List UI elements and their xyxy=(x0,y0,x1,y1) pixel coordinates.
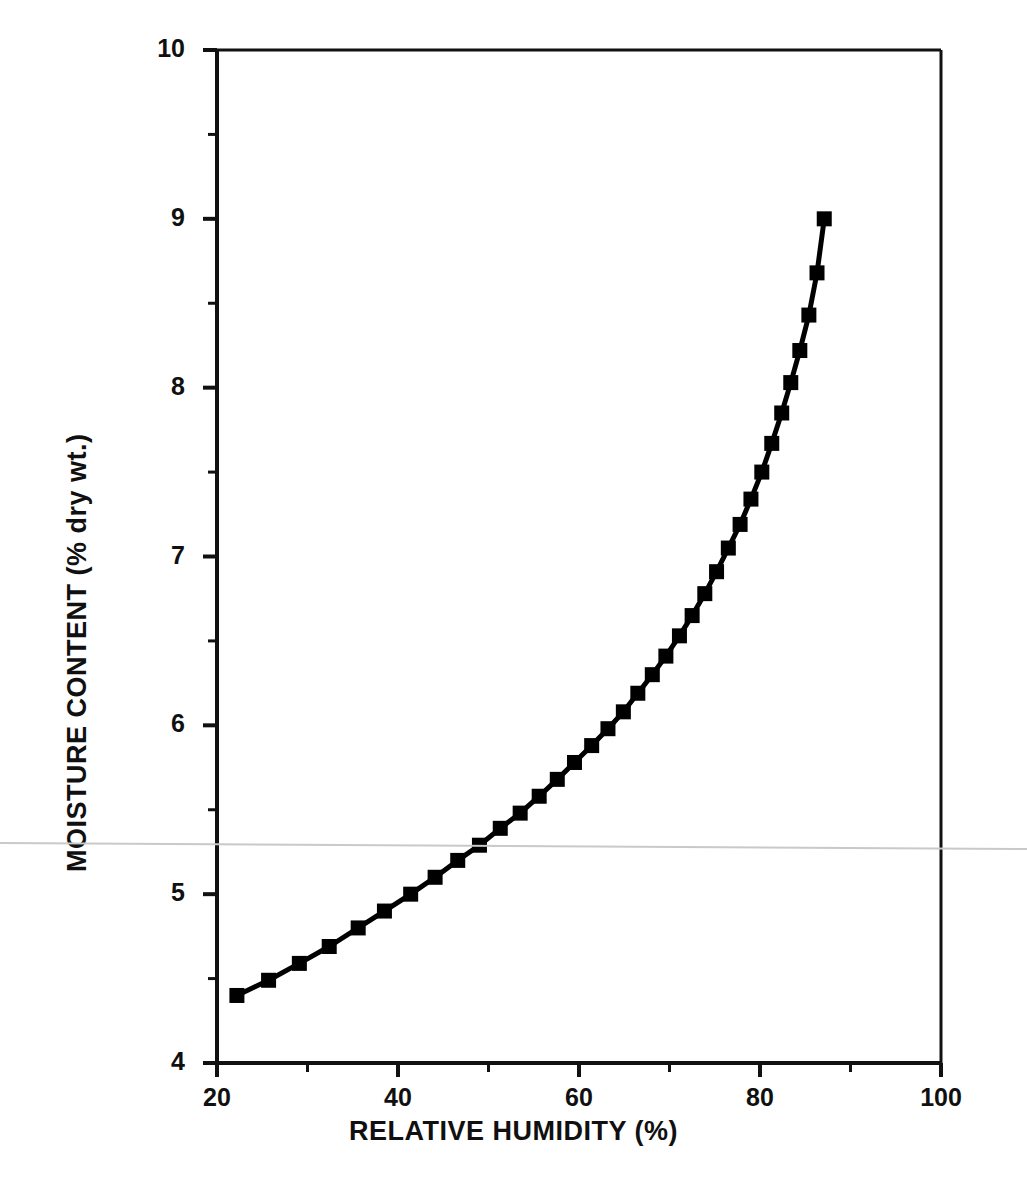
data-point-marker xyxy=(697,586,712,601)
data-point-marker xyxy=(600,721,615,736)
y-tick-label: 8 xyxy=(97,372,185,401)
data-series-markers xyxy=(229,211,831,1003)
y-tick-marks xyxy=(203,50,217,1063)
data-point-marker xyxy=(322,939,337,954)
x-axis-title: RELATIVE HUMIDITY (%) xyxy=(0,1116,1027,1147)
data-point-marker xyxy=(567,755,582,770)
x-tick-label: 100 xyxy=(881,1083,1001,1112)
y-tick-label: 9 xyxy=(97,203,185,232)
data-point-marker xyxy=(810,265,825,280)
y-tick-label: 10 xyxy=(97,34,185,63)
data-point-marker xyxy=(709,564,724,579)
data-point-marker xyxy=(754,465,769,480)
data-point-marker xyxy=(428,870,443,885)
data-point-marker xyxy=(672,628,687,643)
data-point-marker xyxy=(774,405,789,420)
data-point-marker xyxy=(229,988,244,1003)
data-point-marker xyxy=(513,806,528,821)
data-point-marker xyxy=(550,772,565,787)
data-point-marker xyxy=(733,517,748,532)
data-series-line xyxy=(237,219,824,996)
data-point-marker xyxy=(792,343,807,358)
data-point-marker xyxy=(351,920,366,935)
data-point-marker xyxy=(801,308,816,323)
plot-area xyxy=(0,0,1027,1204)
y-tick-label: 4 xyxy=(97,1047,185,1076)
data-point-marker xyxy=(630,686,645,701)
data-point-marker xyxy=(817,211,832,226)
x-tick-label: 80 xyxy=(700,1083,820,1112)
data-point-marker xyxy=(472,838,487,853)
data-point-marker xyxy=(261,973,276,988)
data-point-marker xyxy=(645,667,660,682)
data-point-marker xyxy=(450,853,465,868)
chart-figure: MOISTURE CONTENT (% dry wt.) RELATIVE HU… xyxy=(0,0,1027,1204)
y-axis-title: MOISTURE CONTENT (% dry wt.) xyxy=(62,434,93,873)
data-point-marker xyxy=(721,541,736,556)
data-point-marker xyxy=(532,789,547,804)
y-tick-label: 7 xyxy=(97,541,185,570)
data-point-marker xyxy=(403,887,418,902)
data-point-marker xyxy=(292,956,307,971)
axes-frame xyxy=(217,50,941,1063)
data-point-marker xyxy=(616,704,631,719)
data-point-marker xyxy=(584,738,599,753)
data-point-marker xyxy=(764,436,779,451)
data-point-marker xyxy=(743,492,758,507)
x-tick-label: 40 xyxy=(338,1083,458,1112)
y-tick-label: 5 xyxy=(97,878,185,907)
x-tick-label: 60 xyxy=(519,1083,639,1112)
data-point-marker xyxy=(658,649,673,664)
y-tick-label: 6 xyxy=(97,709,185,738)
data-point-marker xyxy=(493,821,508,836)
data-point-marker xyxy=(377,904,392,919)
data-point-marker xyxy=(783,375,798,390)
x-tick-marks xyxy=(217,1063,941,1077)
data-point-marker xyxy=(685,608,700,623)
x-tick-label: 20 xyxy=(157,1083,277,1112)
